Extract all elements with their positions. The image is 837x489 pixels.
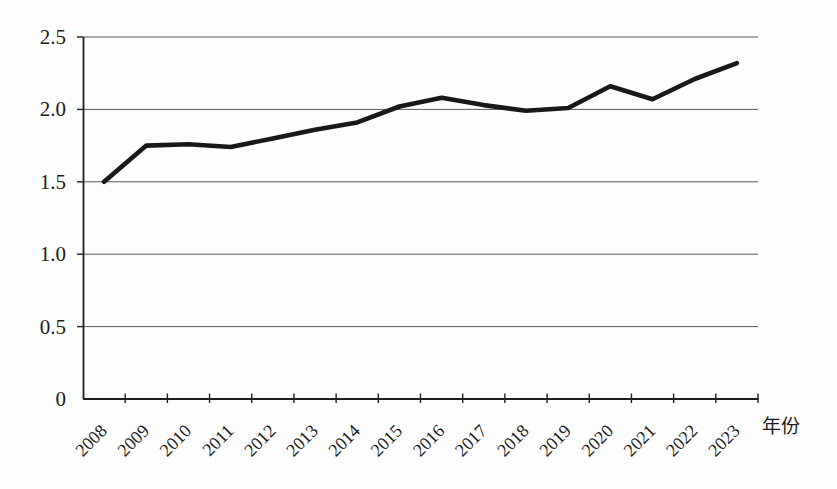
year-label-2020: 2020 [578,421,618,461]
year-label-2011: 2011 [198,421,237,460]
year-label-2014: 2014 [324,421,364,461]
year-label-2008: 2008 [71,421,111,461]
year-label-2023: 2023 [704,421,744,461]
year-label-2009: 2009 [114,421,154,461]
year-label-2013: 2013 [282,421,322,461]
y-tick-label: 1.5 [40,170,66,194]
gridlines [83,37,758,327]
year-label-2016: 2016 [409,421,449,461]
x-axis-title: 年份 [762,416,800,437]
year-label-2012: 2012 [240,421,280,461]
x-axis-labels: 2008200920102011201220132014201520162017… [71,421,743,461]
line-chart-figure: 00.51.01.52.02.5200820092010201120122013… [0,0,837,489]
y-axis-ticks: 00.51.01.52.02.5 [40,25,83,411]
y-tick-label: 0.5 [40,315,66,339]
y-tick-label: 2.5 [40,25,66,49]
year-label-2019: 2019 [535,421,575,461]
year-label-2018: 2018 [493,421,533,461]
y-tick-label: 1.0 [40,242,66,266]
chart-canvas: 00.51.01.52.02.5200820092010201120122013… [0,0,837,489]
year-label-2017: 2017 [451,421,491,461]
year-label-2015: 2015 [367,421,407,461]
year-label-2021: 2021 [620,421,660,461]
year-label-2022: 2022 [662,421,702,461]
year-label-2010: 2010 [156,421,196,461]
y-tick-label: 2.0 [40,97,66,121]
series-line [104,63,737,182]
y-tick-label: 0 [56,387,67,411]
